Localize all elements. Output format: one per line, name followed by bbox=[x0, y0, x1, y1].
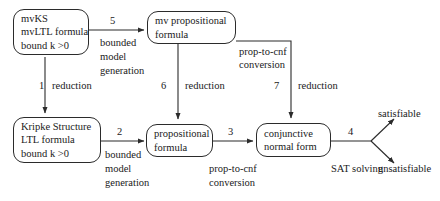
node-mv-propositional-formula[interactable]: mv propositional formula bbox=[147, 11, 236, 44]
node-mvks-line-3: bound k >0 bbox=[21, 39, 81, 53]
node-mvks[interactable]: mvKS mvLTL formula bound k >0 bbox=[13, 9, 89, 55]
node-conjunctive-normal-form[interactable]: conjunctive normal form bbox=[256, 123, 331, 157]
edge-label-4: SAT solving bbox=[331, 162, 383, 175]
node-mvks-line-2: mvLTL formula bbox=[21, 25, 81, 39]
edge-label-3-line-2: conversion bbox=[209, 176, 255, 189]
node-mv-propositional-formula-line-2: formula bbox=[155, 28, 228, 42]
edge-label-5-line-2: model bbox=[100, 50, 126, 63]
node-mv-propositional-formula-line-1: mv propositional bbox=[155, 14, 228, 28]
edge-label-3-line-1: prop-to-cnf bbox=[209, 162, 257, 175]
edge-label-2-line-3: generation bbox=[105, 176, 149, 189]
node-propositional-formula[interactable]: propositional formula bbox=[146, 124, 213, 157]
edge-label-5-line-1: bounded bbox=[100, 36, 136, 49]
edge-number-4: 4 bbox=[348, 125, 353, 138]
node-kripke-structure-line-2: LTL formula bbox=[21, 133, 93, 147]
edge-number-7: 7 bbox=[274, 79, 279, 92]
edge-label-6: reduction bbox=[185, 79, 225, 92]
edge-label-5-line-3: generation bbox=[100, 64, 144, 77]
edge-label-7-source-line-2: conversion bbox=[239, 58, 285, 71]
diagram-canvas: mvKS mvLTL formula bound k >0 mv proposi… bbox=[0, 0, 440, 201]
outcome-unsatisfiable: unsatisfiable bbox=[378, 162, 431, 175]
edge-number-2: 2 bbox=[117, 125, 122, 138]
node-kripke-structure[interactable]: Kripke Structure LTL formula bound k >0 bbox=[13, 117, 101, 163]
edge-number-3: 3 bbox=[228, 125, 233, 138]
node-kripke-structure-line-3: bound k >0 bbox=[21, 147, 93, 161]
node-propositional-formula-line-2: formula bbox=[154, 141, 205, 155]
node-conjunctive-normal-form-line-2: normal form bbox=[264, 140, 323, 154]
connector-satisfiable bbox=[371, 119, 394, 141]
edge-label-7: reduction bbox=[298, 79, 338, 92]
node-mvks-line-1: mvKS bbox=[21, 12, 81, 26]
outcome-satisfiable: satisfiable bbox=[378, 107, 421, 120]
edge-number-6: 6 bbox=[161, 79, 166, 92]
edge-number-5: 5 bbox=[110, 14, 115, 27]
edge-label-2-line-2: model bbox=[105, 162, 131, 175]
node-kripke-structure-line-1: Kripke Structure bbox=[21, 120, 93, 134]
edge-label-7-source-line-1: prop-to-cnf bbox=[239, 45, 287, 58]
edge-label-1: reduction bbox=[52, 79, 92, 92]
node-conjunctive-normal-form-line-1: conjunctive bbox=[264, 127, 323, 141]
edge-label-2-line-1: bounded bbox=[105, 148, 141, 161]
edge-number-1: 1 bbox=[39, 79, 44, 92]
connector-unsatisfiable bbox=[371, 141, 394, 163]
node-propositional-formula-line-1: propositional bbox=[154, 127, 205, 141]
